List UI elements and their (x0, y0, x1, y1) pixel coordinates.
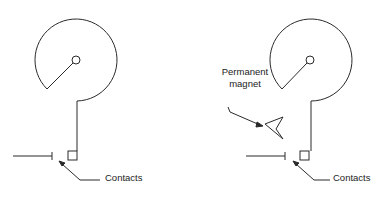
diagram-canvas (0, 0, 376, 197)
right-pivot-icon (306, 56, 314, 64)
left-contact-square (68, 151, 77, 160)
right-assembly (228, 19, 352, 180)
magnet-label-line1: Permanent (215, 66, 275, 77)
magnet-arrow-head (256, 122, 263, 127)
left-pivot-icon (72, 56, 80, 64)
right-contact-square (300, 151, 309, 160)
right-pointer-arm (282, 63, 307, 89)
left-contacts-leader (62, 164, 100, 180)
left-pointer-arm (47, 63, 73, 89)
left-assembly (13, 19, 117, 180)
left-contacts-label: Contacts (105, 172, 143, 183)
right-contacts-leader (296, 164, 330, 180)
permanent-magnet-icon (265, 117, 283, 139)
right-contacts-label: Contacts (333, 172, 371, 183)
magnet-leader (228, 107, 260, 125)
magnet-label-line2: magnet (215, 78, 275, 89)
